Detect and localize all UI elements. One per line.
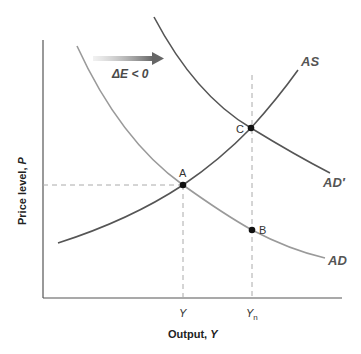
ad-prime-label: AD′ bbox=[322, 175, 346, 190]
point-a-label: A bbox=[179, 167, 187, 179]
point-b-label: B bbox=[259, 224, 266, 236]
ad-label: AD bbox=[327, 253, 347, 268]
x-tick-y: Y bbox=[179, 307, 187, 319]
point-c bbox=[248, 125, 255, 132]
ad-as-diagram: ΔE < 0 A B C AS AD′ AD Y Yn Output, Y Pr… bbox=[0, 0, 361, 354]
as-label: AS bbox=[300, 54, 319, 69]
as-curve bbox=[58, 70, 298, 243]
x-tick-yn-sub: n bbox=[253, 313, 257, 322]
point-c-label: C bbox=[236, 123, 244, 135]
x-tick-yn: Yn bbox=[246, 307, 258, 322]
shift-arrow-head bbox=[152, 52, 164, 65]
point-a bbox=[180, 182, 187, 189]
y-axis-title: Price level, P bbox=[16, 156, 28, 225]
ad-prime-curve bbox=[154, 17, 330, 173]
shift-arrow-shaft bbox=[93, 56, 153, 61]
arrow-label: ΔE < 0 bbox=[111, 67, 149, 81]
point-b bbox=[249, 227, 256, 234]
x-axis-title: Output, Y bbox=[168, 328, 219, 340]
